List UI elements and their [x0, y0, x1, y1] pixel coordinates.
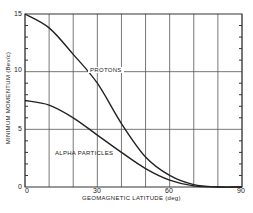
y-tick-10: 10: [14, 66, 22, 73]
y-tick-5: 5: [18, 125, 22, 132]
protons-label: PROTONS: [88, 67, 124, 73]
x-axis-label: GEOMAGNETIC LATITUDE (deg): [82, 195, 181, 201]
x-tick-30: 30: [93, 187, 101, 194]
x-tick-0: 0: [25, 187, 29, 194]
y-axis-label: MINIMUM MOMENTUM (Bev/c): [5, 52, 11, 145]
y-tick-15: 15: [14, 10, 22, 17]
chart-plot: [0, 0, 253, 213]
x-tick-60: 60: [165, 187, 173, 194]
x-tick-90: 90: [237, 187, 245, 194]
y-tick-0: 0: [18, 183, 22, 190]
alpha-label: ALPHA PARTICLES: [55, 150, 113, 156]
